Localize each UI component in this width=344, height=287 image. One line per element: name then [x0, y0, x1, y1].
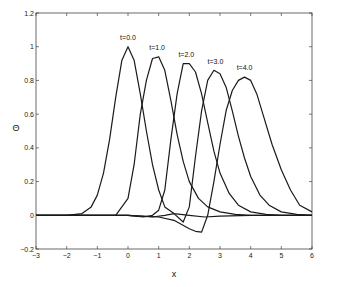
y-tick-label: 1.2	[24, 10, 34, 17]
y-tick-label: 1	[30, 43, 34, 50]
y-tick-label: 0	[30, 212, 34, 219]
curve-label: t=1.0	[149, 44, 165, 51]
line-chart: −3−2−10123456 −0.200.20.40.60.811.2 t=0.…	[0, 0, 344, 287]
curve-label: t=3.0	[208, 58, 224, 65]
y-tick-label: 0.2	[24, 178, 34, 185]
y-tick-label: −0.2	[20, 246, 34, 253]
x-tick-label: 6	[310, 252, 314, 259]
curve-label: t=2.0	[178, 51, 194, 58]
y-axis-label: Θ	[12, 123, 19, 133]
curve-label: t=0.0	[120, 34, 136, 41]
y-tick-label: 0.4	[24, 144, 34, 151]
x-tick-label: −1	[93, 252, 101, 259]
x-tick-label: 5	[279, 252, 283, 259]
x-tick-label: 2	[187, 252, 191, 259]
x-tick-label: 4	[249, 252, 253, 259]
x-tick-label: 1	[157, 252, 161, 259]
x-tick-label: −2	[63, 252, 71, 259]
chart-background	[0, 0, 344, 287]
x-tick-label: 3	[218, 252, 222, 259]
y-tick-label: 0.8	[24, 77, 34, 84]
x-axis-label: x	[172, 269, 177, 279]
x-tick-label: −3	[32, 252, 40, 259]
y-tick-label: 0.6	[24, 111, 34, 118]
curve-label: t=4.0	[237, 64, 253, 71]
x-tick-label: 0	[126, 252, 130, 259]
